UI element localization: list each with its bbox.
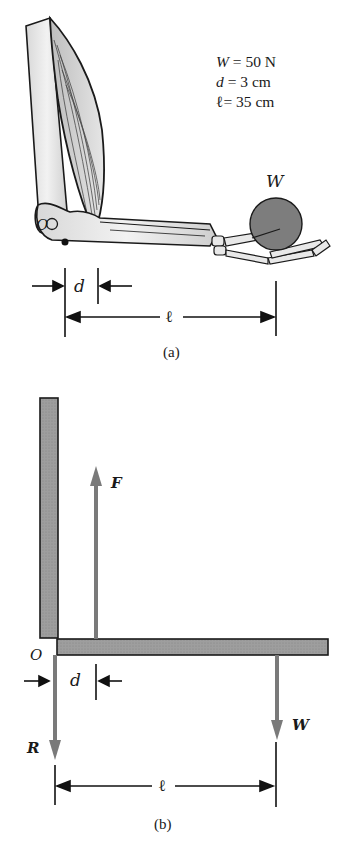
label-force-f: F	[111, 476, 122, 491]
force-f-arrow	[90, 466, 102, 639]
reaction-r-arrow	[49, 655, 61, 760]
label-pivot-a: O	[36, 218, 48, 233]
pivot-point	[62, 239, 69, 246]
label-d-b: d	[70, 672, 81, 689]
parameter-list: W = 50 N d = 3 cm ℓ= 35 cm	[216, 52, 276, 112]
weight-w-arrow	[271, 655, 283, 740]
label-d-a: d	[74, 278, 85, 295]
caption-b: (b)	[154, 817, 172, 832]
param-weight: W = 50 N	[216, 52, 276, 72]
caption-a: (a)	[163, 345, 180, 360]
param-l: ℓ= 35 cm	[216, 92, 276, 112]
weight-ball	[250, 198, 302, 250]
label-l-a: ℓ	[165, 309, 173, 325]
label-pivot-o: O	[30, 648, 42, 663]
upper-arm-bar	[40, 398, 58, 638]
label-reaction-r: R	[27, 741, 39, 756]
forearm-bar	[57, 639, 328, 655]
free-body-diagram	[40, 398, 328, 760]
arm-illustration	[26, 18, 330, 264]
label-weight-a: W	[266, 173, 283, 190]
param-d: d = 3 cm	[216, 72, 276, 92]
dimension-l-b	[55, 742, 276, 807]
label-weight-w: W	[292, 718, 309, 733]
label-l-b: ℓ	[158, 778, 166, 794]
